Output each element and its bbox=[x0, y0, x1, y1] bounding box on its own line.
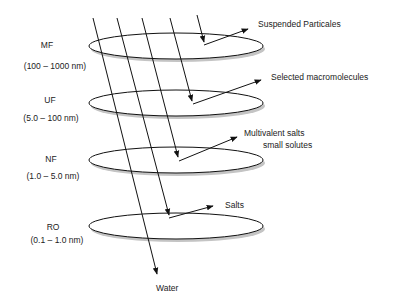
stage-ro-name: RO bbox=[47, 223, 60, 232]
stage-mf-name: MF bbox=[41, 41, 53, 50]
stage-nf-name: NF bbox=[45, 155, 56, 164]
membrane-mf bbox=[89, 33, 265, 62]
retained-uf-label: Selected macromolecules bbox=[271, 73, 368, 82]
permeate-label: Water bbox=[156, 284, 178, 293]
retained-mf-label: Suspended Particales bbox=[258, 20, 341, 29]
filtration-diagram: MF (100 – 1000 nm) UF (5.0 – 100 nm) NF … bbox=[0, 0, 401, 304]
stage-uf-name: UF bbox=[44, 96, 55, 105]
retained-nf-label: Multivalent salts bbox=[244, 129, 304, 138]
diagram-graphics bbox=[0, 0, 401, 304]
stage-mf-range: (100 – 1000 nm) bbox=[24, 62, 86, 71]
retained-ro-label: Salts bbox=[225, 201, 244, 210]
membrane-ro bbox=[89, 213, 265, 242]
stage-nf-range: (1.0 – 5.0 nm) bbox=[27, 172, 80, 181]
stage-uf-range: (5.0 – 100 nm) bbox=[23, 114, 78, 123]
membrane-uf bbox=[89, 90, 265, 119]
retained-nf-label-2: small solutes bbox=[263, 141, 312, 150]
stage-ro-range: (0.1 – 1.0 nm) bbox=[31, 236, 84, 245]
